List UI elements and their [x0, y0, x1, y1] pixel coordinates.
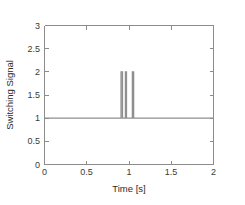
x-tick-label-1: 1 — [126, 167, 131, 177]
x-tick-labels: 0 0.5 1 1.5 2 — [42, 167, 216, 177]
x-tick-label-2: 2 — [211, 167, 216, 177]
y-axis-title: Switching Signal — [4, 60, 15, 130]
x-axis-title: Time [s] — [112, 183, 145, 194]
plot-area-background — [44, 25, 213, 164]
y-tick-label-0-5: 0.5 — [27, 136, 40, 146]
chart-figure: 0 0.5 1 1.5 2 0 0.5 1 1.5 2 2.5 3 Time [… — [0, 0, 245, 205]
y-tick-label-1: 1 — [35, 113, 40, 123]
y-tick-label-0: 0 — [35, 160, 40, 170]
y-tick-label-1-5: 1.5 — [27, 90, 40, 100]
y-tick-label-3: 3 — [35, 21, 40, 31]
x-tick-label-1-5: 1.5 — [165, 167, 178, 177]
y-tick-labels: 0 0.5 1 1.5 2 2.5 3 — [27, 21, 40, 170]
y-tick-label-2: 2 — [35, 67, 40, 77]
x-tick-label-0: 0 — [42, 167, 47, 177]
x-tick-label-0-5: 0.5 — [80, 167, 93, 177]
switching-signal-plot: 0 0.5 1 1.5 2 0 0.5 1 1.5 2 2.5 3 Time [… — [0, 0, 245, 205]
y-tick-label-2-5: 2.5 — [27, 44, 40, 54]
